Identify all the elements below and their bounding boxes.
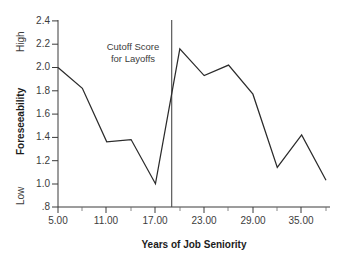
x-tick-label-35: 35.00 [281, 216, 321, 226]
cutoff-annotation-block: Cutoff Score for Layoffs [96, 41, 170, 65]
x-tick-marks [58, 207, 301, 213]
y-tick-label-1-6: 1.6 [26, 109, 50, 119]
cutoff-annotation-line-1: Cutoff Score [96, 41, 170, 53]
x-tick-label-11: 11.00 [86, 216, 126, 226]
series-foreseeability [58, 49, 326, 184]
x-tick-label-23: 23.00 [184, 216, 224, 226]
y-axis-low-label: Low [16, 187, 26, 205]
y-tick-label-1-2: 1.2 [26, 156, 50, 166]
cutoff-annotation-line-2: for Layoffs [96, 53, 170, 65]
y-tick-label-1-4: 1.4 [26, 132, 50, 142]
y-tick-label-2-0: 2.0 [26, 62, 50, 72]
y-tick-label-2-4: 2.4 [26, 16, 50, 26]
y-axis-title: Foreseeability [16, 88, 26, 155]
y-axis-high-label: High [16, 31, 26, 52]
x-tick-label-17: 17.00 [135, 216, 175, 226]
chart-figure: 2.4 2.2 2.0 1.8 1.6 1.4 1.2 1.0 .8 5.00 … [0, 0, 339, 266]
y-tick-label-1-0: 1.0 [26, 179, 50, 189]
x-axis-title: Years of Job Seniority [58, 240, 330, 250]
plot-area [0, 0, 339, 266]
y-tick-label-1-8: 1.8 [26, 86, 50, 96]
x-tick-label-29: 29.00 [233, 216, 273, 226]
y-tick-label-0-8: .8 [26, 202, 50, 212]
y-tick-marks [52, 21, 58, 207]
y-tick-label-2-2: 2.2 [26, 39, 50, 49]
x-tick-label-5: 5.00 [38, 216, 78, 226]
